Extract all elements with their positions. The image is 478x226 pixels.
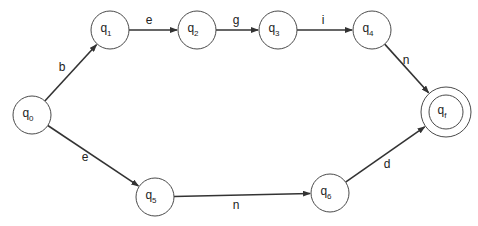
transition-label: i: [322, 13, 325, 27]
transition-q0-q1: [45, 45, 97, 101]
state-q2: q2: [178, 11, 216, 49]
transition-q5-q6: [174, 193, 310, 196]
state-q3: q3: [259, 11, 297, 49]
state-qf: qf: [421, 87, 471, 137]
transition-label: n: [233, 198, 240, 212]
state-q1: q1: [91, 11, 129, 49]
transition-q6-qf: [346, 127, 425, 182]
state-q0: q0: [13, 96, 51, 134]
states: q0q1q2q3q4qfq5q6: [13, 11, 471, 216]
transition-label: n: [403, 53, 410, 67]
state-q5: q5: [136, 178, 174, 216]
transition-label: g: [233, 13, 240, 27]
state-q4: q4: [353, 11, 391, 49]
transition-q4-qf: [385, 44, 429, 93]
transition-label: e: [146, 13, 153, 27]
transition-label: e: [82, 150, 89, 164]
transition-label: d: [384, 157, 391, 171]
transition-q0-q5: [48, 126, 139, 186]
state-q6: q6: [311, 174, 349, 212]
transition-label: b: [59, 60, 66, 74]
state-diagram: beginend q0q1q2q3q4qfq5q6: [0, 0, 478, 226]
